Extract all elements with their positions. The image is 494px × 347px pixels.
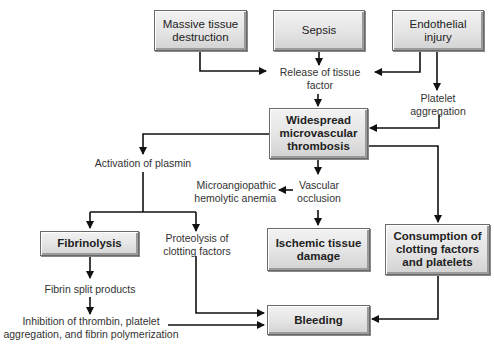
node-widespread-microvascular-thrombosis: Widespreadmicrovascularthrombosis [269, 108, 368, 159]
label-platelet-aggregation: Plateletaggregation [402, 92, 474, 117]
label-text: clotting factors [163, 245, 231, 257]
label-text: Fibrin split products [44, 283, 135, 295]
label-text: Vascular [299, 179, 339, 191]
node-massive-tissue-destruction: Massive tissuedestruction [154, 10, 247, 51]
node-label: Bleeding [294, 314, 343, 327]
label-text: aggregation, and fibrin polymerization [3, 328, 178, 340]
label-fibrin-split-products: Fibrin split products [30, 283, 150, 296]
node-label: Endothelial [410, 18, 467, 30]
node-label: thrombosis [287, 140, 350, 152]
label-release-of-tissue-factor: Release of tissuefactor [268, 66, 372, 91]
label-text: Proteolysis of [165, 232, 228, 244]
node-label: microvascular [280, 127, 358, 139]
node-label: Sepsis [302, 24, 337, 37]
label-proteolysis-of-clotting-factors: Proteolysis ofclotting factors [156, 232, 238, 257]
label-text: Platelet [420, 92, 455, 104]
node-bleeding: Bleeding [267, 305, 370, 335]
node-label: Ischemic tissue [276, 237, 362, 249]
node-label: injury [424, 31, 451, 43]
label-microangiopathic-hemolytic-anemia: Microangiopathichemolytic anemia [176, 179, 276, 204]
node-fibrinolysis: Fibrinolysis [40, 231, 139, 256]
node-label: Consumption of [393, 230, 481, 242]
label-inhibition-of-thrombin: Inhibition of thrombin, plateletaggregat… [0, 315, 182, 340]
node-ischemic-tissue-damage: Ischemic tissuedamage [267, 228, 370, 271]
label-text: Activation of plasmin [95, 157, 191, 169]
label-text: hemolytic anemia [194, 192, 276, 204]
node-label: destruction [172, 31, 228, 43]
label-text: Microangiopathic [197, 179, 276, 191]
label-activation-of-plasmin: Activation of plasmin [88, 157, 198, 170]
node-label: and platelets [402, 256, 472, 268]
label-text: aggregation [410, 105, 465, 117]
node-endothelial-injury: Endothelialinjury [392, 10, 484, 51]
node-label: Fibrinolysis [57, 237, 122, 250]
node-label: Widespread [286, 114, 351, 126]
node-sepsis: Sepsis [273, 10, 365, 51]
label-text: Inhibition of thrombin, platelet [22, 315, 159, 327]
label-text: occlusion [297, 192, 341, 204]
node-label: clotting factors [396, 243, 479, 255]
node-label: Massive tissue [163, 18, 238, 30]
label-text: factor [307, 79, 333, 91]
label-text: Release of tissue [280, 66, 361, 78]
label-vascular-occlusion: Vascularocclusion [292, 179, 346, 204]
node-consumption-of-clotting-factors: Consumption ofclotting factorsand platel… [385, 224, 490, 275]
node-label: damage [297, 250, 340, 262]
